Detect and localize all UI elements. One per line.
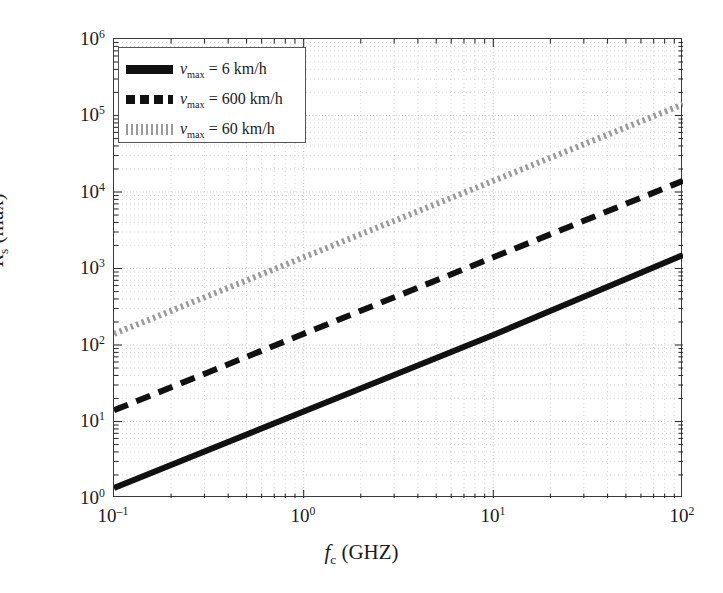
y-tick-label: 106 xyxy=(45,29,105,48)
legend-label: νmax = 60 km/h xyxy=(180,121,275,137)
x-axis-label: fc (GHZ) xyxy=(0,540,723,565)
legend-label-suffix: = 6 km/h xyxy=(205,60,267,77)
y-tick-label: 103 xyxy=(45,258,105,277)
legend-box: νmax = 6 km/h νmax = 600 km/h νmax = 60 … xyxy=(118,47,306,143)
figure-canvas: 106 105 104 103 102 101 100 10–1 100 101… xyxy=(0,0,723,593)
y-axis-label: Rs (max) xyxy=(0,150,9,310)
legend-swatch-dotted-icon xyxy=(126,124,173,135)
legend-swatch-solid-icon xyxy=(126,65,173,74)
y-tick-label: 102 xyxy=(45,335,105,354)
x-tick-label: 10–1 xyxy=(73,506,153,525)
legend-label-suffix: = 60 km/h xyxy=(205,120,275,137)
x-tick-label: 101 xyxy=(453,506,533,525)
y-tick-label: 100 xyxy=(45,488,105,507)
legend-item: νmax = 60 km/h xyxy=(126,114,298,144)
y-tick-label: 105 xyxy=(45,105,105,124)
y-tick-label: 101 xyxy=(45,411,105,430)
legend-label-suffix: = 600 km/h xyxy=(205,90,283,107)
y-tick-label: 104 xyxy=(45,182,105,201)
legend-label: νmax = 6 km/h xyxy=(180,61,267,77)
legend-item: νmax = 6 km/h xyxy=(126,54,298,84)
x-tick-label: 100 xyxy=(263,506,343,525)
legend-item: νmax = 600 km/h xyxy=(126,84,298,114)
data-series-group xyxy=(114,104,683,488)
series-line xyxy=(114,255,683,488)
legend-label: νmax = 600 km/h xyxy=(180,91,283,107)
x-tick-label: 102 xyxy=(642,506,722,525)
legend-swatch-dashed-icon xyxy=(126,95,173,104)
